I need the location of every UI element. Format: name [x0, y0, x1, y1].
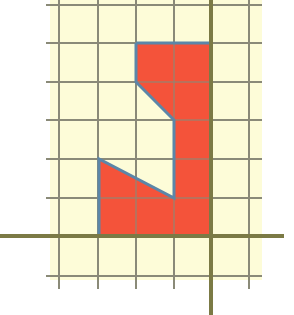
grid-diagram [0, 0, 294, 315]
